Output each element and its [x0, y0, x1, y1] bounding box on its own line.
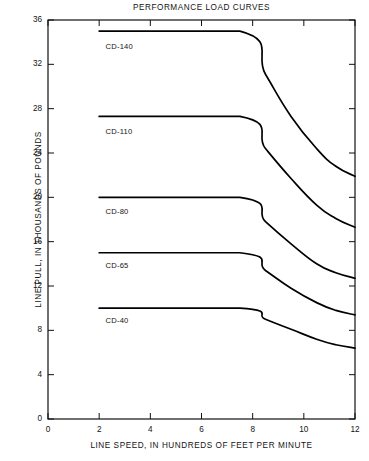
series-label-cd-110: CD-110 [106, 127, 133, 136]
y-axis-label: LINE PULL, IN THOUSANDS OF POUNDS [34, 90, 43, 350]
x-tick-label: 0 [36, 425, 60, 434]
curve-cd-65 [99, 253, 355, 315]
y-tick-label: 24 [16, 148, 42, 157]
y-tick-label: 0 [16, 414, 42, 423]
x-tick-label: 6 [190, 425, 214, 434]
curve-cd-80 [99, 197, 355, 278]
y-tick-label: 28 [16, 104, 42, 113]
x-tick-label: 2 [87, 425, 111, 434]
x-tick-label: 4 [138, 425, 162, 434]
series-label-cd-140: CD-140 [106, 42, 133, 51]
axes-frame [48, 20, 355, 419]
series-label-cd-80: CD-80 [106, 207, 129, 216]
x-tick-label: 8 [241, 425, 265, 434]
y-tick-label: 20 [16, 192, 42, 201]
y-tick-label: 36 [16, 15, 42, 24]
data-curves [99, 31, 355, 348]
axis-ticks [48, 20, 355, 419]
x-tick-label: 12 [343, 425, 367, 434]
curve-cd-110 [99, 116, 355, 227]
plot-area [0, 0, 369, 461]
y-tick-label: 4 [16, 370, 42, 379]
performance-load-curves-figure: PERFORMANCE LOAD CURVES LINE PULL, IN TH… [0, 0, 369, 461]
curve-cd-40 [99, 308, 355, 348]
series-label-cd-40: CD-40 [106, 316, 129, 325]
curve-cd-140 [99, 31, 355, 176]
x-tick-label: 10 [292, 425, 316, 434]
y-tick-label: 16 [16, 237, 42, 246]
chart-title: PERFORMANCE LOAD CURVES [48, 3, 355, 12]
y-tick-label: 8 [16, 325, 42, 334]
series-label-cd-65: CD-65 [106, 261, 129, 270]
y-tick-label: 12 [16, 281, 42, 290]
plot-frame [48, 20, 355, 419]
y-tick-label: 32 [16, 59, 42, 68]
x-axis-label: LINE SPEED, IN HUNDREDS OF FEET PER MINU… [48, 441, 355, 450]
